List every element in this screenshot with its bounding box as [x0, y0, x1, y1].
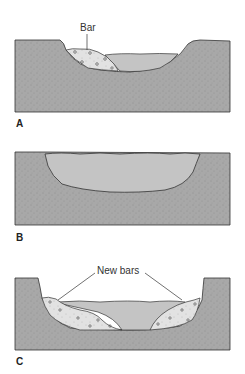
panel-label-c: C: [16, 356, 23, 367]
panel-label-b: B: [16, 232, 23, 243]
river-channel-diagram: Bar A B New bars C: [0, 0, 245, 374]
panel-label-a: A: [16, 118, 23, 129]
panel-a: Bar A: [15, 22, 230, 129]
panel-b: B: [15, 152, 230, 243]
new-bars-callout-line-left: [58, 273, 95, 300]
ground-a: [15, 40, 230, 112]
panel-c: New bars C: [15, 265, 230, 367]
new-bars-callout-label: New bars: [97, 265, 139, 276]
new-bars-callout-line-right: [145, 273, 182, 300]
bar-callout-label: Bar: [80, 22, 96, 33]
